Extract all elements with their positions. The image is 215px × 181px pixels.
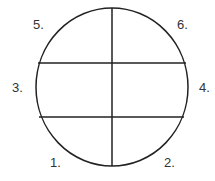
label-1: 1. [50, 155, 61, 170]
label-6: 6. [177, 17, 188, 32]
six-region-circle-diagram: 5. 6. 3. 4. 1. 2. [0, 0, 215, 181]
label-4: 4. [199, 80, 210, 95]
label-3: 3. [12, 80, 23, 95]
label-5: 5. [33, 17, 44, 32]
label-2: 2. [164, 155, 175, 170]
